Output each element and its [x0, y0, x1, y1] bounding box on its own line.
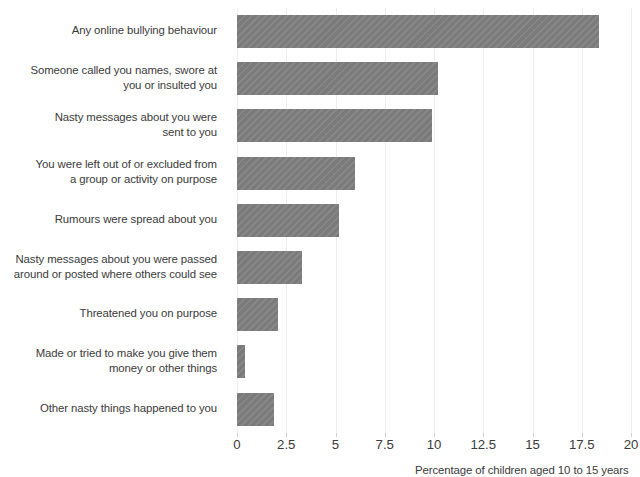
category-label-line: around or posted where others could see: [0, 267, 217, 282]
category-label-line: you or insulted you: [0, 78, 217, 93]
bar-fill: [237, 204, 339, 237]
plot-area: [237, 8, 631, 433]
category-label: Threatened you on purpose: [0, 306, 217, 321]
bar: [237, 298, 278, 331]
x-axis: 02.557.51012.51517.520: [237, 433, 631, 457]
bar-fill: [237, 345, 245, 378]
category-label: Any online bullying behaviour: [0, 23, 217, 38]
x-tick-label: 17.5: [569, 437, 595, 452]
bar: [237, 345, 245, 378]
category-label-line: money or other things: [0, 361, 217, 376]
bar: [237, 109, 432, 142]
category-label-line: Nasty messages about you were passed: [0, 252, 217, 267]
category-label: Nasty messages about you were passedarou…: [0, 252, 217, 282]
x-tick-label: 10: [427, 437, 442, 452]
x-tick-label: 20: [624, 437, 639, 452]
bar: [237, 251, 302, 284]
category-label-line: You were left out of or excluded from: [0, 157, 217, 172]
category-label-line: Other nasty things happened to you: [0, 401, 217, 416]
category-label-line: Someone called you names, swore at: [0, 63, 217, 78]
category-axis-labels: Any online bullying behaviourSomeone cal…: [0, 8, 227, 433]
category-label: Someone called you names, swore atyou or…: [0, 63, 217, 93]
category-label-line: Rumours were spread about you: [0, 212, 217, 227]
bar-fill: [237, 157, 355, 190]
bar: [237, 204, 339, 237]
bar-series: [237, 8, 631, 433]
category-label: Other nasty things happened to you: [0, 401, 217, 416]
category-label-line: a group or activity on purpose: [0, 172, 217, 187]
gridline-20: [631, 8, 632, 433]
category-label-line: Nasty messages about you were: [0, 110, 217, 125]
bar: [237, 62, 438, 95]
category-label-line: Threatened you on purpose: [0, 306, 217, 321]
category-label-line: sent to you: [0, 125, 217, 140]
x-tick-label: 2.5: [277, 437, 295, 452]
category-label: Rumours were spread about you: [0, 212, 217, 227]
x-tick-label: 0: [233, 437, 240, 452]
category-label: You were left out of or excluded froma g…: [0, 157, 217, 187]
x-axis-title: Percentage of children aged 10 to 15 yea…: [415, 464, 629, 476]
bar-fill: [237, 251, 302, 284]
bar-fill: [237, 15, 599, 48]
category-label-line: Any online bullying behaviour: [0, 23, 217, 38]
category-label: Nasty messages about you weresent to you: [0, 110, 217, 140]
x-tick-label: 15: [525, 437, 540, 452]
bar-fill: [237, 109, 432, 142]
bar: [237, 157, 355, 190]
x-tick-label: 7.5: [376, 437, 394, 452]
bar-fill: [237, 298, 278, 331]
bar-chart-figure: Any online bullying behaviourSomeone cal…: [0, 0, 640, 477]
x-tick-label: 12.5: [470, 437, 496, 452]
category-label: Made or tried to make you give themmoney…: [0, 346, 217, 376]
bar-fill: [237, 62, 438, 95]
bar: [237, 15, 599, 48]
category-label-line: Made or tried to make you give them: [0, 346, 217, 361]
bar: [237, 393, 274, 426]
x-tick-label: 5: [332, 437, 339, 452]
bar-fill: [237, 393, 274, 426]
